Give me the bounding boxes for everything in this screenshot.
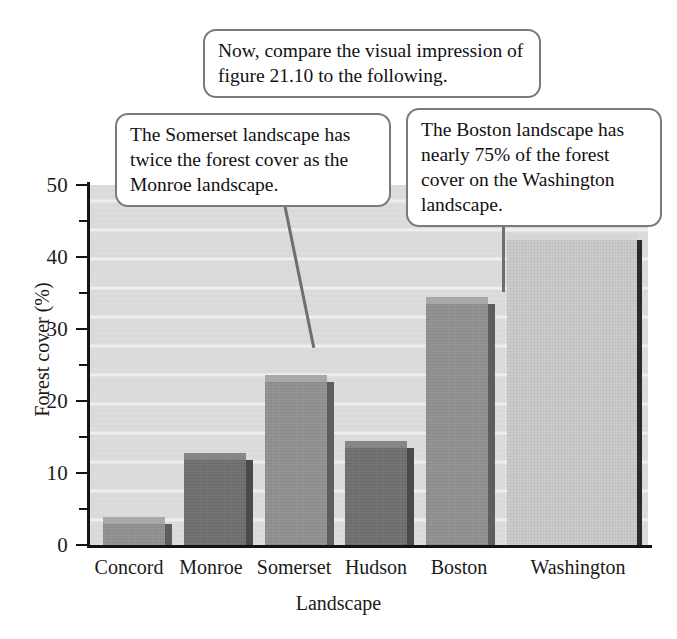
callout-somerset-note: The Somerset landscape has twice the for… [115,113,391,207]
callout-boston-note-line1: The Boston landscape has [421,117,648,142]
bar-front-face [265,382,327,545]
x-tick-label-washington: Washington [498,556,658,579]
y-tick-label-50: 50 [14,175,68,196]
y-tick-major-50 [76,184,88,186]
bar-top-face [184,453,246,460]
callout-boston-note-line3: cover on the Washington [421,167,648,192]
bar-front-face [103,524,165,545]
bar-front-face [345,448,407,545]
bar-side-face [165,524,172,545]
bar-top-face [103,517,165,524]
callout-top-note-line1: Now, compare the visual impression of [218,38,527,63]
callout-boston-note-line4: landscape. [421,192,648,217]
y-tick-minor-45 [79,220,88,222]
callout-boston-note-line2: nearly 75% of the forest [421,142,648,167]
bar-front-face [507,240,637,545]
bar-hudson [345,448,407,545]
y-tick-major-10 [76,472,88,474]
bar-side-face [246,460,253,545]
bar-side-face [407,448,414,545]
bar-somerset [265,382,327,545]
bar-chart-figure: 0 10 20 30 40 50 Forest cover (%) Landsc… [0,0,677,639]
bar-washington [507,240,637,545]
y-axis-title: Forest cover (%) [31,220,54,480]
callout-boston-note: The Boston landscape has nearly 75% of t… [406,108,662,227]
callout-somerset-note-line1: The Somerset landscape has [130,122,377,147]
y-tick-minor-25 [79,364,88,366]
x-axis-title: Landscape [0,592,677,615]
bar-top-face [265,375,327,382]
callout-top-note: Now, compare the visual impression of fi… [203,29,541,98]
leader-line-boston [502,226,505,292]
y-tick-major-30 [76,328,88,330]
y-tick-label-0: 0 [14,535,68,556]
bar-monroe [184,460,246,545]
callout-top-note-line2: figure 21.10 to the following. [218,63,527,88]
bar-side-face [327,382,334,545]
bar-front-face [426,304,488,545]
callout-somerset-note-line3: Monroe landscape. [130,172,377,197]
y-tick-major-20 [76,400,88,402]
x-axis-line [87,545,652,548]
bar-boston [426,304,488,545]
bar-concord [103,524,165,545]
bar-side-face [637,240,642,545]
bar-top-face [426,297,488,304]
plot-area [89,185,648,545]
y-tick-major-40 [76,256,88,258]
y-tick-minor-35 [79,292,88,294]
callout-somerset-note-line2: twice the forest cover as the [130,147,377,172]
bar-top-face [507,233,637,240]
bar-top-face [345,441,407,448]
bar-front-face [184,460,246,545]
y-tick-minor-15 [79,436,88,438]
bar-side-face [488,304,495,545]
y-tick-minor-5 [79,508,88,510]
y-tick-major-0 [76,544,88,546]
